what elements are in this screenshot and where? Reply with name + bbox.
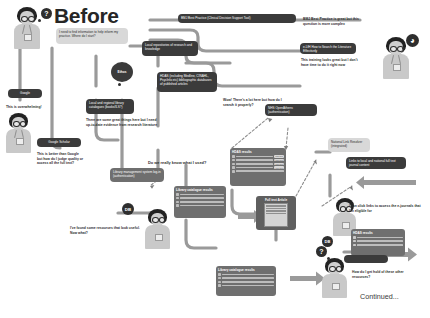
question-glyph-2: ? bbox=[319, 248, 323, 255]
checkbox-icon[interactable] bbox=[218, 281, 221, 284]
id-badge bbox=[24, 34, 32, 41]
checkbox-icon[interactable] bbox=[218, 273, 221, 276]
result-text-bar bbox=[180, 205, 224, 207]
screen-library-catalogue-results-1[interactable]: Library catalogue results bbox=[174, 186, 226, 218]
glasses-left-lens bbox=[13, 121, 20, 127]
result-text-bar bbox=[222, 274, 274, 276]
avatar-nurse-bottom-right bbox=[322, 258, 348, 298]
node-library-mgmt-login[interactable]: Library management system log-in (authen… bbox=[110, 168, 164, 182]
node-elfh-training[interactable]: e-LfH How to Search the Literature Effec… bbox=[300, 43, 356, 54]
result-text-bar bbox=[357, 240, 403, 242]
result-row[interactable] bbox=[176, 197, 224, 200]
result-text-bar bbox=[222, 285, 274, 287]
question-mark-icon-2: ? bbox=[316, 246, 327, 257]
glasses-left-lens bbox=[390, 46, 397, 52]
result-row[interactable]: Full text bbox=[232, 159, 284, 162]
result-row[interactable] bbox=[218, 277, 274, 280]
screen-library-catalogue-results-2[interactable]: Library catalogue results bbox=[216, 266, 276, 296]
glasses-right-lens bbox=[336, 266, 343, 272]
checkbox-icon[interactable] bbox=[218, 284, 221, 287]
glasses-left-lens bbox=[21, 16, 28, 22]
page-line bbox=[266, 210, 285, 211]
checkbox-icon[interactable] bbox=[176, 201, 179, 204]
result-row[interactable]: Full text bbox=[232, 166, 284, 169]
hdas-results-header-2: HDAS results bbox=[353, 231, 403, 235]
id-badge bbox=[16, 138, 24, 145]
result-text-bar bbox=[222, 281, 274, 283]
node-hdas-databases[interactable]: HDAS (including Medline, CINAHL, PsycInf… bbox=[157, 72, 217, 92]
result-row[interactable] bbox=[353, 244, 403, 247]
result-row[interactable] bbox=[176, 201, 224, 204]
node-google-scholar[interactable]: Google Scholar bbox=[37, 138, 81, 147]
result-text-bar bbox=[222, 277, 274, 279]
id-badge bbox=[155, 234, 163, 241]
screen-hdas-results-1[interactable]: HDAS results Full text Full text Full te… bbox=[230, 148, 286, 186]
db-badge-icon: DB bbox=[122, 203, 134, 215]
node-ethos[interactable]: Ethos bbox=[111, 62, 133, 82]
result-text-bar bbox=[236, 163, 273, 165]
question-bubble-tail-2 bbox=[327, 257, 330, 260]
result-text-bar bbox=[357, 237, 403, 239]
page-line bbox=[266, 205, 285, 206]
checkbox-icon[interactable] bbox=[176, 197, 179, 200]
speech-can-click-links: I can click links to access the e-journa… bbox=[349, 204, 423, 213]
check-icon[interactable] bbox=[353, 236, 356, 239]
result-text-bar bbox=[180, 194, 224, 196]
question-mark-icon: ? bbox=[41, 8, 52, 19]
db-badge-icon-2: DB bbox=[322, 236, 333, 247]
article-page-icon bbox=[264, 203, 288, 227]
continued-label: Continued... bbox=[360, 292, 399, 301]
checkbox-icon[interactable] bbox=[176, 193, 179, 196]
checkbox-icon[interactable] bbox=[232, 166, 235, 169]
speech-training-no-time: This training looks great but I don't ha… bbox=[301, 58, 363, 67]
result-row[interactable]: Full text bbox=[232, 155, 284, 158]
checkbox-icon[interactable] bbox=[176, 204, 179, 207]
lib-cat-header-1: Library catalogue results bbox=[176, 188, 224, 192]
checkbox-icon[interactable] bbox=[218, 277, 221, 280]
result-row[interactable] bbox=[353, 240, 403, 243]
screen-hdas-results-2[interactable]: HDAS results bbox=[351, 229, 405, 256]
id-badge bbox=[393, 64, 401, 71]
db-glyph-2: DB bbox=[325, 239, 331, 244]
result-row[interactable] bbox=[218, 284, 274, 287]
check-icon[interactable] bbox=[353, 244, 356, 247]
result-text-bar bbox=[180, 197, 224, 199]
ethos-label: Ethos bbox=[118, 70, 127, 74]
page-line bbox=[266, 208, 285, 209]
lib-cat-header-2: Library catalogue results bbox=[218, 268, 274, 272]
result-row[interactable] bbox=[232, 170, 284, 173]
speech-get-hold: How do I get hold of these other resourc… bbox=[352, 270, 416, 279]
full-text-button[interactable]: Full text bbox=[274, 155, 284, 157]
result-text-bar bbox=[236, 167, 273, 169]
node-links-fulltext[interactable]: Links to local and national full text jo… bbox=[346, 157, 406, 169]
node-local-repositories[interactable]: Local repositories of research and knowl… bbox=[142, 41, 198, 56]
node-google[interactable]: Google bbox=[8, 89, 42, 98]
page-title: Before bbox=[54, 4, 119, 28]
result-row[interactable] bbox=[218, 273, 274, 276]
clock-icon: ◕ bbox=[406, 34, 419, 47]
speech-bmj-complex: BMJ Best Practice is great but this ques… bbox=[303, 17, 371, 26]
speech-great-things: There are some great things here but I n… bbox=[86, 118, 160, 127]
clock-glyph: ◕ bbox=[410, 36, 415, 45]
node-national-link-resolver[interactable]: National Link Resolver (integrated) bbox=[328, 138, 370, 152]
full-text-button[interactable]: Full text bbox=[274, 159, 284, 161]
result-row[interactable] bbox=[218, 281, 274, 284]
glasses-right-lens bbox=[20, 121, 27, 127]
glasses-left-lens bbox=[340, 206, 346, 212]
result-row[interactable] bbox=[176, 193, 224, 196]
checkbox-icon[interactable] bbox=[232, 155, 235, 158]
checkbox-icon[interactable] bbox=[232, 170, 235, 173]
full-text-button[interactable]: Full text bbox=[274, 166, 284, 168]
result-text-bar bbox=[236, 159, 273, 161]
result-row[interactable] bbox=[353, 236, 403, 239]
node-bmj-best-practice[interactable]: BMJ Best Practice (Clinical Decision Sup… bbox=[178, 14, 296, 23]
result-row[interactable] bbox=[176, 204, 224, 207]
result-text-bar bbox=[357, 244, 403, 246]
node-need-info[interactable]: I need to find information to help infor… bbox=[56, 28, 128, 44]
avatar-nurse-bottom-left bbox=[145, 209, 171, 249]
doc-full-text-article[interactable]: Full text Article bbox=[256, 196, 296, 230]
full-text-button[interactable]: Full text bbox=[274, 163, 284, 165]
check-icon[interactable] bbox=[353, 240, 356, 243]
speech-better-than-google: This is better than Google but how do I … bbox=[37, 152, 85, 166]
result-row[interactable]: Full text bbox=[232, 163, 284, 166]
